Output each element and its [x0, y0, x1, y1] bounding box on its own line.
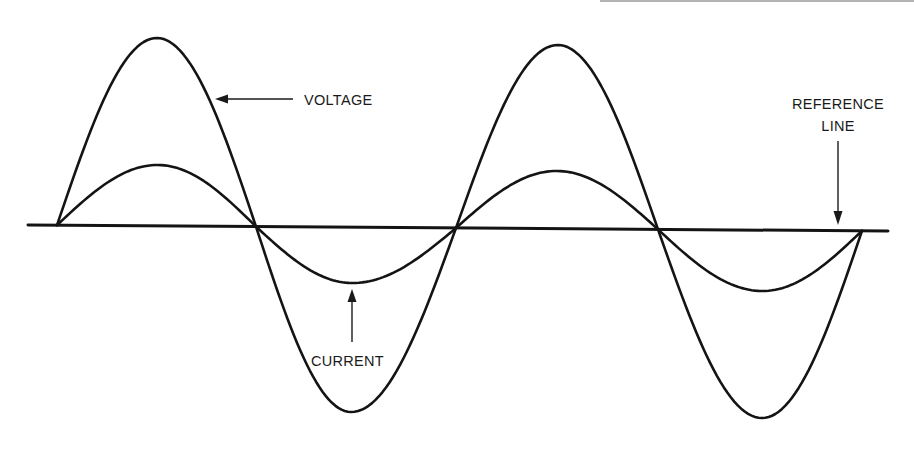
- voltage-label: VOLTAGE: [304, 92, 372, 108]
- reference-line-annotation: REFERENCE LINE: [792, 96, 884, 225]
- ac-waveform-diagram: VOLTAGE CURRENT REFERENCE LINE: [0, 0, 914, 449]
- reference-label-line2: LINE: [821, 118, 854, 134]
- reference-label-line1: REFERENCE: [792, 96, 884, 112]
- arrow-down-icon: [834, 211, 843, 225]
- current-annotation: CURRENT: [311, 289, 384, 369]
- voltage-annotation: VOLTAGE: [215, 92, 372, 108]
- arrow-left-icon: [215, 95, 228, 104]
- arrow-up-icon: [348, 289, 357, 302]
- current-label: CURRENT: [311, 353, 384, 369]
